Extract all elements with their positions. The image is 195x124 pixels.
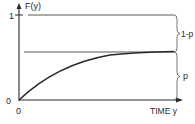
x-tick-label-zero: 0 xyxy=(16,106,21,116)
cdf-curve xyxy=(19,52,174,101)
y-tick-label-zero: 0 xyxy=(6,96,11,106)
y-axis-arrow-icon xyxy=(17,3,22,9)
diagram-canvas: F(y) 1 0 0 TIME y 1-p p xyxy=(0,0,195,124)
brace-one-minus-p xyxy=(174,15,180,52)
brace-label-p: p xyxy=(183,71,188,81)
x-axis-label: TIME y xyxy=(150,106,178,116)
brace-p xyxy=(174,52,180,100)
y-axis-label: F(y) xyxy=(25,1,41,11)
brace-label-one-minus-p: 1-p xyxy=(181,29,194,39)
y-tick-label-one: 1 xyxy=(9,11,14,21)
